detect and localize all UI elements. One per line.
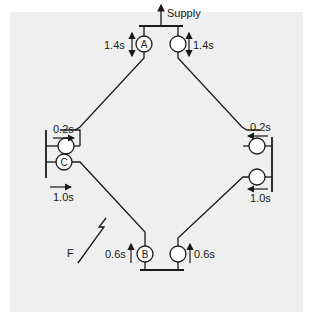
- fault-line: [78, 218, 106, 263]
- feeder-top-right: [178, 52, 260, 130]
- time-a: 1.4s: [104, 39, 125, 51]
- relay-right-upper: [249, 138, 265, 154]
- relay-left-upper: [58, 138, 74, 154]
- time-b: 0.6s: [105, 248, 126, 260]
- feeder-bottom-right: [178, 177, 249, 246]
- time-right-upper: 0.2s: [250, 121, 271, 133]
- ring-diagram: A C B Supply 1.4s 1.4s 0.2s 1.0s 0.2s 1.…: [0, 0, 313, 324]
- time-c: 1.0s: [53, 191, 74, 203]
- fault-label: F: [67, 247, 74, 259]
- relay-a-label: A: [141, 39, 148, 50]
- time-top-right: 1.4s: [193, 39, 214, 51]
- relay-b-label: B: [142, 249, 149, 260]
- relay-c-label: C: [60, 157, 67, 168]
- time-right-lower: 1.0s: [250, 192, 271, 204]
- feeder-top-left: [60, 52, 144, 130]
- time-bottom-right: 0.6s: [194, 248, 215, 260]
- relay-right-lower: [249, 169, 265, 185]
- time-left-upper: 0.2s: [53, 123, 74, 135]
- relay-top-right: [170, 36, 186, 52]
- relay-bottom-right: [170, 246, 186, 262]
- supply-label: Supply: [167, 7, 201, 19]
- feeder-bottom-left: [72, 162, 145, 246]
